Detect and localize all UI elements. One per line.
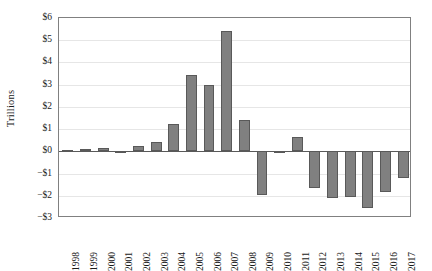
y-tick-label: $2: [43, 101, 53, 111]
bar: [398, 151, 409, 178]
bar: [309, 151, 320, 188]
x-tick-label: 2006: [213, 252, 223, 271]
x-tick-label: 2009: [265, 252, 275, 271]
bar: [380, 151, 391, 192]
x-tick-label: 2002: [142, 252, 152, 271]
y-tick-label: −$3: [37, 212, 52, 222]
y-tick-label: $5: [43, 34, 53, 44]
bar: [115, 151, 126, 153]
x-tick-label: 2012: [318, 252, 328, 271]
bar: [292, 137, 303, 151]
x-tick-label: 2001: [124, 252, 134, 271]
y-tick-label: −$2: [37, 190, 52, 200]
x-tick-label: 2010: [283, 252, 293, 271]
x-tick-label: 2000: [107, 252, 117, 271]
y-tick-label: $3: [43, 79, 53, 89]
x-tick-label: 2007: [230, 252, 240, 271]
y-axis-tick-labels: $6$5$4$3$2$1$0−$1−$2−$3: [22, 0, 55, 254]
bar: [151, 142, 162, 151]
y-tick-label: $0: [43, 145, 53, 155]
x-tick-label: 2014: [354, 252, 364, 271]
y-axis-title-label: Trillions: [6, 90, 17, 128]
x-tick-label: 2003: [160, 252, 170, 271]
x-tick-label: 2008: [248, 252, 258, 271]
plot-area: [58, 17, 411, 217]
y-tick-label: $4: [43, 56, 53, 66]
x-tick-label: 1999: [89, 252, 99, 271]
bar: [221, 31, 232, 151]
y-tick-label: −$1: [37, 168, 52, 178]
x-tick-label: 2013: [336, 252, 346, 271]
y-axis-title: Trillions: [0, 0, 22, 217]
x-tick-label: 2005: [195, 252, 205, 271]
bar: [133, 146, 144, 151]
y-tick-label: $6: [43, 12, 53, 22]
y-tick-label: $1: [43, 123, 53, 133]
bar: [274, 151, 285, 153]
x-tick-label: 2016: [389, 252, 399, 271]
x-tick-label: 2011: [301, 252, 311, 271]
bar: [362, 151, 373, 208]
bar: [257, 151, 268, 194]
bar: [186, 75, 197, 152]
bar: [239, 120, 250, 151]
x-tick-label: 1998: [71, 252, 81, 271]
bars-layer: [59, 18, 410, 216]
bar: [98, 148, 109, 151]
x-axis-tick-labels: 1998199920002001200220032004200520062007…: [58, 219, 411, 254]
x-tick-label: 2004: [177, 252, 187, 271]
bar: [345, 151, 356, 197]
x-tick-label: 2015: [371, 252, 381, 271]
bar: [327, 151, 338, 198]
bar: [62, 150, 73, 152]
bar: [168, 124, 179, 152]
bar: [204, 85, 215, 152]
bar: [80, 149, 91, 152]
x-tick-label: 2017: [407, 252, 417, 271]
